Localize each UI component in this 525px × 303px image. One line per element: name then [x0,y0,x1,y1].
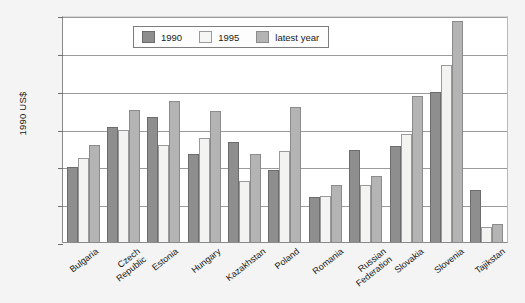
bar [470,190,481,242]
x-axis-category-label: Bulgaria [69,247,101,275]
bar [390,146,401,242]
legend-label: 1995 [218,32,239,43]
bar [371,176,382,242]
chart-legend: 19901995latest year [133,26,329,48]
x-axis-category-label: Tajikstan [473,247,506,276]
bar [279,151,290,242]
x-axis-category-label: Hungary [190,247,223,276]
x-axis-label-cell: Poland [265,245,306,303]
x-axis-category-label: Poland [274,247,302,272]
legend-label: latest year [275,32,319,43]
bar [320,196,331,242]
x-axis-label-cell: Bulgaria [62,245,103,303]
bar [401,134,412,242]
bar [331,185,342,242]
x-axis-category-label: Estonia [151,247,181,273]
bar-group [144,17,184,242]
bar [188,154,199,242]
bar [412,96,423,242]
bar [360,185,371,242]
x-axis-label-cell: Estonia [143,245,184,303]
bar [349,150,360,242]
bar [158,145,169,242]
bar [199,138,210,242]
bar [169,101,180,242]
x-axis-category-label: Slovakia [393,247,426,276]
x-axis-label-cell: CzechRepublic [103,245,144,303]
legend-swatch [199,31,212,43]
bar-group [305,17,345,242]
bar [430,92,441,242]
legend-item: 1990 [142,31,182,43]
bar [492,224,503,242]
bar [441,65,452,242]
x-axis-label-cell: RussianFederation [346,245,387,303]
bar [452,21,463,242]
bar-group [224,17,264,242]
legend-swatch [256,31,269,43]
bar [481,227,492,242]
legend-swatch [142,31,155,43]
bar [268,170,279,243]
legend-label: 1990 [161,32,182,43]
bar-group [467,17,507,242]
bar [107,127,118,242]
bar [290,107,301,242]
x-axis-category-label: CzechRepublic [109,247,148,284]
bar [228,142,239,242]
bar [239,181,250,242]
y-axis-title: 1990 US$ [17,69,28,159]
bar-chart-figure: 1990 US$ 06 00012 00018 00024 00030 0003… [0,0,525,303]
bar-group [103,17,143,242]
legend-item: 1995 [199,31,239,43]
bar [129,110,140,242]
x-axis-label-cell: Hungary [184,245,225,303]
bar-group [184,17,224,242]
bar [210,111,221,242]
x-axis-label-cell: Slovakia [386,245,427,303]
bar-group [386,17,426,242]
x-axis-label-cell: Slovenia [427,245,468,303]
x-axis-tick-labels: BulgariaCzechRepublicEstoniaHungaryKazak… [62,245,508,303]
bar [118,130,129,242]
bar [309,197,320,242]
x-axis-label-cell: Kazakhstan [224,245,265,303]
bar-group [346,17,386,242]
x-axis-label-cell: Romania [305,245,346,303]
bar-group [265,17,305,242]
bar-group [426,17,466,242]
bar-groups [63,17,507,242]
bar-group [63,17,103,242]
x-axis-category-label: Slovenia [433,247,466,276]
plot-area [62,16,508,243]
x-axis-category-label: Kazakhstan [225,247,268,284]
bar [147,117,158,242]
bar [78,158,89,242]
legend-item: latest year [256,31,319,43]
bar [67,167,78,242]
bar [250,154,261,242]
x-axis-category-label: Romania [311,247,345,277]
x-axis-label-cell: Tajikstan [467,245,508,303]
bar [89,145,100,242]
